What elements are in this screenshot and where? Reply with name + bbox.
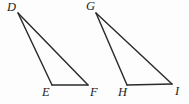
vertex-label-i: I [175, 85, 179, 98]
vertex-label-d: D [7, 1, 16, 14]
vertex-label-f: F [90, 86, 98, 99]
vertex-label-g: G [86, 0, 95, 13]
vertex-label-e: E [42, 86, 50, 99]
edge-f-d [18, 13, 88, 85]
edge-g-h [96, 13, 127, 85]
edge-i-g [96, 13, 172, 84]
edge-h-i [127, 84, 172, 85]
vertex-label-h: H [118, 86, 127, 99]
triangle-ghi [96, 13, 172, 85]
geometry-figure: D E F G H I [0, 0, 189, 104]
edge-d-e [18, 13, 52, 85]
triangle-def [18, 13, 88, 85]
